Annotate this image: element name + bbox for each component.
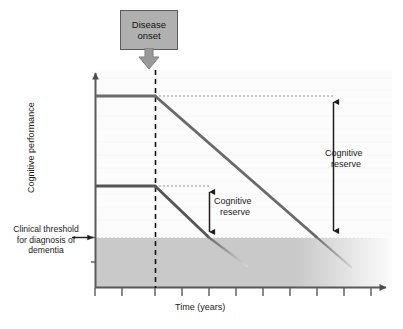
down-arrow-icon	[138, 48, 160, 70]
disease-onset-line2: onset	[137, 30, 160, 41]
threshold-label-line3: dementia	[2, 245, 90, 256]
threshold-label-line1: Clinical threshold	[2, 224, 90, 235]
reserve-high-line2: reserve	[325, 159, 387, 170]
figure-canvas: Disease onset Cognitive performance Time…	[0, 0, 403, 329]
threshold-label-line2: for diagnosis of	[2, 235, 90, 246]
y-axis-label: Cognitive performance	[26, 88, 37, 208]
cognitive-reserve-label-high: Cognitive reserve	[325, 148, 387, 171]
x-axis-ticks	[95, 288, 371, 296]
reserve-low-line1: Cognitive	[214, 196, 272, 207]
disease-onset-line1: Disease	[132, 19, 166, 30]
disease-onset-callout: Disease onset	[120, 10, 178, 50]
reserve-high-line1: Cognitive	[325, 148, 387, 159]
cognitive-reserve-label-low: Cognitive reserve	[214, 196, 272, 219]
x-axis-label: Time (years)	[175, 302, 315, 313]
clinical-threshold-label: Clinical threshold for diagnosis of deme…	[2, 224, 90, 256]
reserve-low-line2: reserve	[214, 207, 272, 218]
